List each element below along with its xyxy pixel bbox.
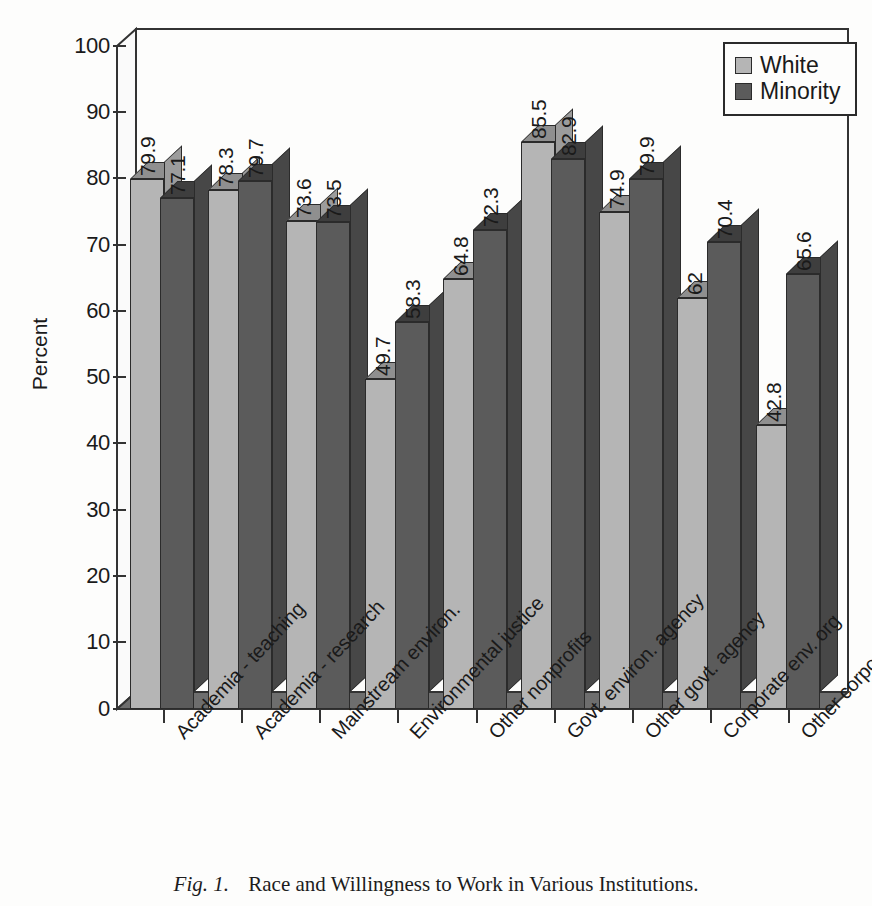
y-tick-mark xyxy=(113,641,126,643)
figure-caption: Fig. 1. Race and Willingness to Work in … xyxy=(0,872,872,897)
bar-value-label-minority-2: 73.5 xyxy=(322,179,346,218)
bar-minority-0 xyxy=(160,198,194,709)
bar-white-6 xyxy=(599,212,633,709)
y-tick-label-100: 100 xyxy=(46,35,110,57)
bar-value-label-white-0: 79.9 xyxy=(136,137,160,176)
figure-caption-text: Race and Willingness to Work in Various … xyxy=(248,872,698,896)
bar-value-label-white-4: 64.8 xyxy=(449,237,473,276)
legend-swatch-minority-icon xyxy=(735,83,752,100)
bar-value-label-white-2: 73.6 xyxy=(292,179,316,218)
bar-value-label-minority-3: 58.3 xyxy=(401,280,425,319)
x-tick-mark xyxy=(554,709,556,723)
bar-value-label-minority-8: 65.6 xyxy=(792,232,816,271)
bar-front-face xyxy=(130,179,164,709)
bar-value-label-white-3: 49.7 xyxy=(371,337,395,376)
bar-value-label-minority-5: 82.9 xyxy=(557,117,581,156)
y-tick-label-0: 0 xyxy=(46,698,110,720)
y-tick-mark xyxy=(113,177,126,179)
y-tick-label-10: 10 xyxy=(46,631,110,653)
y-tick-mark xyxy=(113,310,126,312)
x-tick-mark xyxy=(710,709,712,723)
bar-front-face xyxy=(160,198,194,709)
bar-value-label-white-1: 78.3 xyxy=(214,148,238,187)
bar-value-label-white-8: 42.8 xyxy=(762,383,786,422)
bar-value-label-white-6: 74.9 xyxy=(605,170,629,209)
y-tick-label-70: 70 xyxy=(46,234,110,256)
figure-race-willingness-to-work: Percent 100 90 80 70 60 50 40 30 20 10 0… xyxy=(0,0,872,906)
x-tick-mark xyxy=(241,709,243,723)
y-tick-mark xyxy=(113,509,126,511)
figure-number: Fig. 1. xyxy=(174,872,229,896)
bar-value-label-minority-6: 79.9 xyxy=(635,137,659,176)
bar-value-label-minority-0: 77.1 xyxy=(166,156,190,195)
y-tick-mark xyxy=(113,244,126,246)
bar-value-label-white-7: 62 xyxy=(683,272,707,295)
y-tick-label-60: 60 xyxy=(46,300,110,322)
bar-white-1 xyxy=(208,190,242,709)
y-tick-label-50: 50 xyxy=(46,366,110,388)
bar-front-face xyxy=(286,221,320,709)
y-tick-mark xyxy=(113,708,126,710)
bar-value-label-white-5: 85.5 xyxy=(527,100,551,139)
y-tick-label-20: 20 xyxy=(46,565,110,587)
y-tick-mark xyxy=(113,376,126,378)
y-tick-label-30: 30 xyxy=(46,499,110,521)
bar-front-face xyxy=(443,279,477,709)
chart-legend: White Minority xyxy=(723,42,857,116)
bar-value-label-minority-4: 72.3 xyxy=(479,187,503,226)
x-tick-mark xyxy=(163,709,165,723)
y-tick-mark xyxy=(113,45,126,47)
bar-front-face xyxy=(208,190,242,709)
bar-value-label-minority-7: 70.4 xyxy=(713,200,737,239)
legend-item-white: White xyxy=(735,54,841,77)
legend-label-minority: Minority xyxy=(760,80,841,103)
y-tick-mark xyxy=(113,111,126,113)
x-tick-mark xyxy=(476,709,478,723)
bar-white-7 xyxy=(677,298,711,709)
bar-white-0 xyxy=(130,179,164,709)
legend-label-white: White xyxy=(760,54,819,77)
legend-swatch-white-icon xyxy=(735,57,752,74)
bar-front-face xyxy=(677,298,711,709)
bar-white-4 xyxy=(443,279,477,709)
y-tick-label-40: 40 xyxy=(46,432,110,454)
x-tick-mark xyxy=(788,709,790,723)
legend-item-minority: Minority xyxy=(735,80,841,103)
x-tick-mark xyxy=(632,709,634,723)
y-tick-label-90: 90 xyxy=(46,101,110,123)
bar-white-2 xyxy=(286,221,320,709)
x-tick-mark xyxy=(319,709,321,723)
bar-value-label-minority-1: 79.7 xyxy=(244,138,268,177)
y-tick-mark xyxy=(113,575,126,577)
bar-front-face xyxy=(599,212,633,709)
y-tick-label-80: 80 xyxy=(46,167,110,189)
x-tick-mark xyxy=(397,709,399,723)
y-tick-mark xyxy=(113,442,126,444)
